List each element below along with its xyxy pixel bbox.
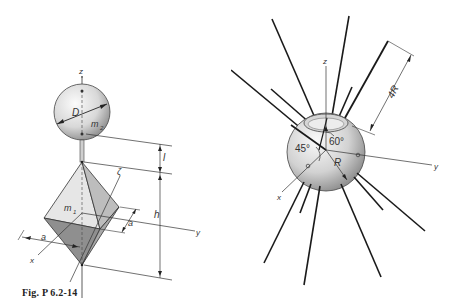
label-a-y: a (128, 218, 133, 228)
label-z: z (78, 67, 83, 76)
figure-p-6-2-15: z y x R 45° 60° 4R Fig. P 6.2-15 (231, 0, 462, 303)
label-D: D (72, 107, 79, 118)
label-y: y (195, 228, 201, 237)
label-a-x: a (41, 232, 46, 242)
figure-p-6-2-14: D m 2 l h m 1 y x ζ (0, 0, 231, 303)
rod-upper-6 (341, 41, 388, 125)
rod-lower-4 (341, 184, 381, 277)
rod-lower-6 (357, 173, 425, 231)
svg-text:2: 2 (99, 125, 104, 131)
label-R: R (334, 157, 341, 168)
label-4R: 4R (385, 83, 401, 99)
bipyramid-sphere-diagram: D m 2 l h m 1 y x ζ (0, 0, 231, 303)
label-m1: m (64, 203, 72, 213)
label-l: l (163, 152, 166, 163)
label-m2: m (91, 119, 99, 129)
label-x: x (276, 193, 282, 202)
sphere-rods-diagram: z y x R 45° 60° 4R (231, 0, 462, 303)
rod-upper-1 (272, 19, 315, 118)
svg-text:1: 1 (73, 209, 76, 215)
label-angle-45: 45° (295, 143, 310, 154)
caption-fig-p-6-2-14: Fig. P 6.2-14 (22, 287, 77, 298)
label-x: x (29, 256, 35, 265)
label-angle-60: 60° (329, 136, 344, 147)
label-y: y (433, 162, 439, 171)
label-h: h (154, 209, 160, 220)
label-z: z (322, 57, 327, 66)
rod-lower-1 (264, 182, 304, 263)
rod-lower-3 (304, 186, 320, 285)
label-zeta: ζ (117, 167, 122, 177)
rod (80, 140, 84, 162)
